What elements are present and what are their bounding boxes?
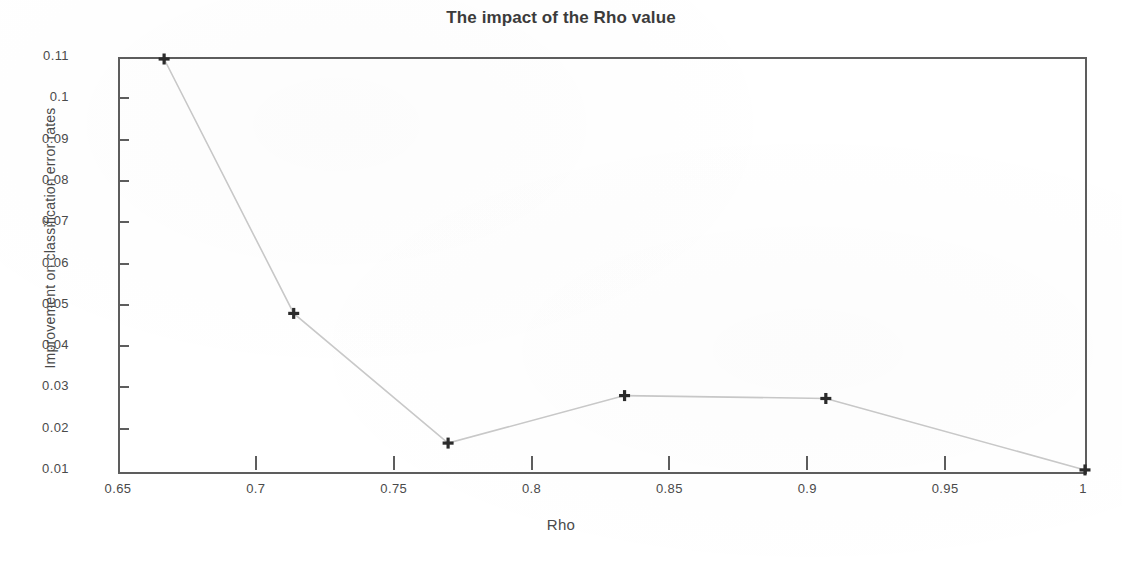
y-axis-tick	[118, 386, 129, 388]
data-point-marker	[623, 390, 626, 401]
y-axis-tick	[118, 263, 129, 265]
y-axis-tick-label: 0.01	[42, 461, 69, 476]
plot-series-svg	[120, 59, 1085, 472]
data-point-marker	[163, 54, 166, 65]
y-axis-tick	[118, 97, 129, 99]
x-axis-tick-label: 1	[1079, 481, 1087, 496]
x-axis-tick-label: 0.7	[246, 481, 265, 496]
series-line	[164, 59, 1085, 470]
chart-figure: The impact of the Rho value 0.110.10.090…	[0, 0, 1122, 565]
x-axis-tick	[531, 456, 533, 470]
x-axis-tick-label: 0.85	[656, 481, 683, 496]
y-axis-tick	[118, 304, 129, 306]
y-axis-tick	[118, 221, 129, 223]
x-axis-tick-label: 0.75	[380, 481, 407, 496]
chart-title: The impact of the Rho value	[0, 8, 1122, 28]
data-point-marker	[292, 308, 295, 319]
data-point-marker	[1083, 464, 1086, 475]
x-axis-tick-label: 0.9	[798, 481, 817, 496]
y-axis-tick	[118, 139, 129, 141]
x-axis-tick-label: 0.95	[932, 481, 959, 496]
x-axis-tick	[393, 456, 395, 470]
x-axis-tick-label: 0.65	[105, 481, 132, 496]
y-axis-tick	[118, 180, 129, 182]
series-markers	[159, 54, 1091, 476]
y-axis-title: Improvement on classification error rate…	[42, 28, 58, 448]
x-axis-tick	[944, 456, 946, 470]
x-axis-tick	[255, 456, 257, 470]
data-point-marker	[824, 393, 827, 404]
x-axis-tick	[806, 456, 808, 470]
x-axis-tick-label: 0.8	[522, 481, 541, 496]
x-axis-title: Rho	[0, 516, 1122, 533]
data-point-marker	[447, 438, 450, 449]
plot-area	[118, 57, 1087, 474]
x-axis-tick	[668, 456, 670, 470]
y-axis-tick	[118, 345, 129, 347]
y-axis-tick	[118, 428, 129, 430]
